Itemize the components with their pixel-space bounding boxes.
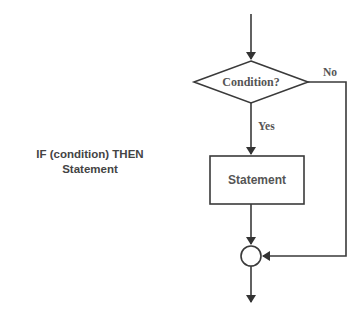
flowchart: Condition? Yes No Statement	[0, 0, 362, 320]
no-label: No	[323, 66, 337, 78]
junction-circle	[241, 246, 261, 266]
statement-label: Statement	[228, 173, 286, 187]
yes-label: Yes	[258, 120, 275, 132]
decision-label: Condition?	[222, 75, 279, 89]
diagram-canvas: IF (condition) THEN Statement	[0, 0, 362, 320]
